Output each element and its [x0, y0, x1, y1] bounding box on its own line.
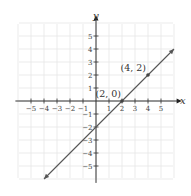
y-tick-label: 2: [88, 72, 92, 80]
data-point-marker: [120, 99, 124, 103]
x-axis-label: x: [180, 95, 186, 106]
y-tick-label: 3: [88, 59, 92, 67]
x-tick-label: −2: [65, 105, 75, 113]
y-tick-label: 1: [88, 85, 92, 93]
line-graph: −5−4−3−2−11234554321−1−2−3−4−5 (2, 0)(4,…: [0, 0, 191, 196]
x-tick-label: 2: [120, 105, 124, 113]
y-tick-label: −2: [82, 124, 92, 132]
x-tick-label: 4: [146, 105, 151, 113]
y-tick-label: −4: [82, 150, 93, 158]
x-tick-label: −5: [26, 105, 36, 113]
y-tick-label: −3: [82, 137, 92, 145]
x-tick-label: −3: [52, 105, 62, 113]
y-tick-label: −5: [82, 163, 92, 171]
axes: [15, 15, 181, 183]
data-point-marker: [146, 73, 150, 77]
x-tick-label: 5: [159, 105, 163, 113]
y-axis-label: y: [92, 10, 99, 21]
data-points: (2, 0)(4, 2): [95, 62, 149, 103]
y-tick-label: 5: [88, 33, 92, 41]
data-point-label: (2, 0): [95, 88, 121, 99]
x-tick-label: 3: [133, 105, 137, 113]
y-tick-label: 4: [88, 46, 93, 54]
y-tick-label: −1: [82, 111, 92, 119]
data-point-label: (4, 2): [120, 62, 146, 73]
x-tick-label: −4: [39, 105, 50, 113]
